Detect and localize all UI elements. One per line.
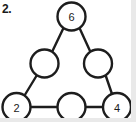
node-right-edge-midpoint[interactable]: [84, 50, 112, 78]
triangle-number-puzzle-diagram: 6 2 4: [0, 0, 136, 122]
question-number-label: 2.: [2, 2, 11, 16]
bottom-edge-shade: [0, 118, 136, 122]
right-edge-shade: [131, 0, 136, 122]
node-bottom-edge-midpoint[interactable]: [58, 93, 86, 121]
node-label-bottom-left-vertex: 2: [13, 102, 19, 114]
edge-left-mid-to-bottom-left: [25, 75, 38, 96]
edge-apex-to-right-mid: [80, 28, 91, 52]
worksheet-problem-image: 6 2 4 2.: [0, 0, 136, 122]
node-label-top-vertex: 6: [68, 11, 74, 23]
edge-apex-to-left-mid: [52, 28, 64, 52]
node-left-edge-midpoint[interactable]: [31, 50, 59, 78]
edge-right-mid-to-bottom-right: [106, 75, 113, 94]
node-label-bottom-right-vertex: 4: [114, 102, 120, 114]
node-group: [3, 3, 132, 122]
